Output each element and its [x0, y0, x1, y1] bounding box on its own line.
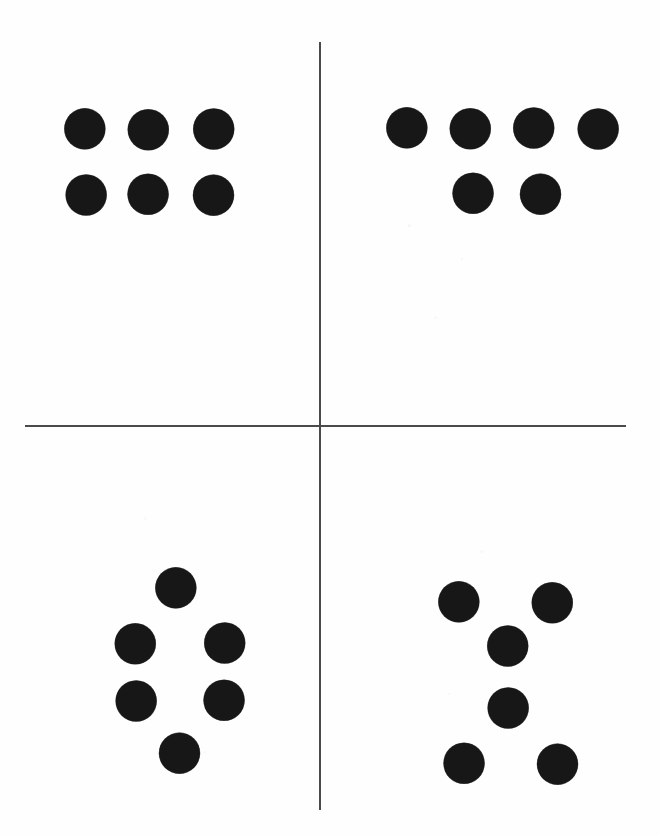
dot-marker — [443, 742, 484, 783]
dot-marker — [487, 687, 528, 728]
quadrant-bottom-right — [0, 0, 660, 836]
dot-marker — [438, 581, 479, 622]
dot-marker — [537, 743, 578, 784]
figure-sheet — [0, 0, 660, 836]
dot-marker — [487, 625, 528, 666]
dot-marker — [531, 582, 572, 623]
